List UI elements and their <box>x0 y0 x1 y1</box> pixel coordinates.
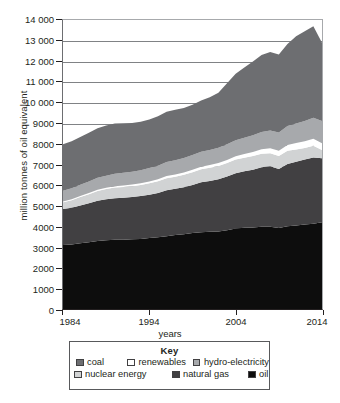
legend-label-oil: oil <box>259 370 268 379</box>
x-axis-title: years <box>0 328 340 339</box>
legend-item-hydro-electricity: hydro-electricity <box>193 358 269 367</box>
x-tick-mark <box>62 310 63 315</box>
legend-item-renewables: renewables <box>127 358 192 367</box>
swatch-coal <box>76 359 84 367</box>
x-tick-label: 1994 <box>138 316 159 327</box>
legend-label-hydro-electricity: hydro-electricity <box>204 358 269 367</box>
swatch-hydro-electricity <box>193 359 201 367</box>
legend-title: Key <box>70 345 269 356</box>
legend-label-coal: coal <box>87 358 104 367</box>
swatch-renewables <box>127 359 135 367</box>
swatch-natural-gas <box>172 371 180 379</box>
x-tick-label: 2004 <box>225 316 246 327</box>
x-tick-label: 2014 <box>306 316 327 327</box>
x-tick-mark <box>149 310 150 315</box>
x-tick-label: 1984 <box>59 316 80 327</box>
stacked-area-chart: million tonnes of oil equivalent 0100020… <box>0 0 340 340</box>
legend-key-box: Key coal renewables hydro-electricity nu… <box>69 341 270 390</box>
legend-row-1: coal renewables hydro-electricity <box>70 358 269 367</box>
legend-item-nuclear-energy: nuclear energy <box>74 370 172 379</box>
legend-label-renewables: renewables <box>138 358 186 367</box>
x-tick-mark <box>323 310 324 315</box>
legend-item-natural-gas: natural gas <box>172 370 248 379</box>
x-axis-ticks: 1984199420042014 <box>0 0 340 340</box>
legend-item-coal: coal <box>76 358 127 367</box>
swatch-oil <box>248 371 256 379</box>
legend-row-2: nuclear energy natural gas oil <box>70 370 269 379</box>
legend-label-natural-gas: natural gas <box>183 370 229 379</box>
legend-label-nuclear-energy: nuclear energy <box>85 370 147 379</box>
x-tick-mark <box>236 310 237 315</box>
legend-item-oil: oil <box>248 370 268 379</box>
swatch-nuclear-energy <box>74 371 82 379</box>
